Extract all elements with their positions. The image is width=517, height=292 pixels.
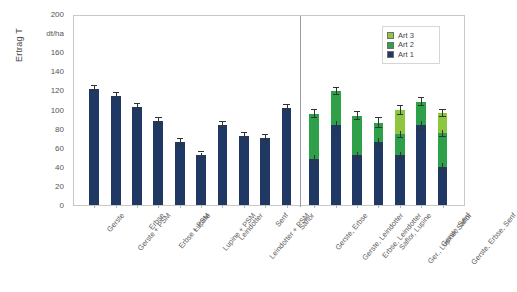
error-cap-inner2-16	[439, 136, 445, 137]
y-tick-0: 0	[30, 202, 64, 210]
error-cap-0-0	[91, 90, 97, 91]
bar-11	[331, 91, 341, 205]
x-tick-12	[357, 205, 358, 208]
bar-10-segment-art1	[309, 159, 319, 205]
error-cap-inner-15	[418, 128, 424, 129]
y-tick-5: 100	[30, 107, 64, 115]
legend-label-art3: Art 3	[398, 32, 414, 40]
bar-11-segment-art2	[331, 91, 341, 124]
legend-swatch-art1	[387, 51, 394, 58]
bar-16-segment-art1	[438, 167, 448, 205]
x-tick-0	[94, 205, 95, 208]
bar-1	[111, 96, 121, 205]
error-cap-0-1	[91, 85, 97, 86]
error-cap-2-1	[134, 103, 140, 104]
x-tick-9	[287, 205, 288, 208]
bar-15-segment-art1	[416, 125, 426, 205]
error-cap-14-1	[397, 105, 403, 106]
bar-7	[239, 136, 249, 205]
x-tick-1	[116, 205, 117, 208]
y-tick-7: 140	[30, 68, 64, 76]
bar-1-segment-art1	[111, 96, 121, 205]
legend-swatch-art3	[387, 32, 394, 39]
bar-6-segment-art1	[218, 125, 228, 205]
error-cap-11-1	[333, 87, 339, 88]
bar-14	[395, 110, 405, 205]
bar-8-segment-art1	[260, 138, 270, 205]
x-tick-3	[158, 205, 159, 208]
y-tick-4: 80	[30, 126, 64, 134]
bar-8	[260, 138, 270, 205]
error-cap-13-1	[375, 117, 381, 118]
error-cap-12-1	[354, 111, 360, 112]
error-cap-1-1	[113, 92, 119, 93]
bar-4-segment-art1	[175, 142, 185, 205]
bar-5	[196, 155, 206, 205]
error-cap-12-0	[354, 119, 360, 120]
error-cap-inner-16	[439, 170, 445, 171]
error-cap-inner2-14	[397, 137, 403, 138]
y-tick-1: 20	[30, 183, 64, 191]
y-tick-2: 40	[30, 164, 64, 172]
x-tick-13	[378, 205, 379, 208]
bar-7-segment-art1	[239, 136, 249, 205]
x-tick-7	[244, 205, 245, 208]
error-cap-9-0	[283, 109, 289, 110]
bar-0-segment-art1	[89, 89, 99, 206]
error-cap-7-1	[241, 132, 247, 133]
error-cap-15-1	[418, 97, 424, 98]
legend-label-art2: Art 2	[398, 41, 414, 49]
error-cap-inner-11	[333, 128, 339, 129]
chart-legend: Art 3 Art 2 Art 1	[382, 26, 440, 64]
x-tick-16	[443, 205, 444, 208]
bar-9	[282, 108, 292, 205]
error-cap-inner-13	[375, 145, 381, 146]
error-cap-5-1	[198, 151, 204, 152]
x-tick-6	[222, 205, 223, 208]
x-tick-11	[336, 205, 337, 208]
error-cap-15-0	[418, 105, 424, 106]
legend-item-art2: Art 2	[387, 41, 435, 49]
x-tick-8	[265, 205, 266, 208]
error-cap-6-0	[219, 127, 225, 128]
legend-label-art1: Art 1	[398, 51, 414, 59]
bar-10	[309, 114, 319, 205]
error-cap-5-0	[198, 157, 204, 158]
error-cap-1-0	[113, 98, 119, 99]
bar-12	[352, 116, 362, 205]
y-tick-3: 60	[30, 145, 64, 153]
bar-3-segment-art1	[153, 121, 163, 205]
bar-16-segment-art2	[438, 133, 448, 166]
error-cap-11-0	[333, 94, 339, 95]
error-cap-inner-14	[397, 158, 403, 159]
bar-13-segment-art1	[374, 142, 384, 205]
y-tick-6: 120	[30, 87, 64, 95]
error-cap-4-0	[177, 144, 183, 145]
bar-12-segment-art2	[352, 116, 362, 155]
y-tick-8: 160	[30, 49, 64, 57]
bar-2-segment-art1	[132, 107, 142, 205]
error-cap-10-1	[311, 109, 317, 110]
y-tick-9: dt/ha	[30, 30, 64, 38]
error-cap-8-1	[262, 134, 268, 135]
legend-item-art1: Art 1	[387, 51, 435, 59]
error-cap-6-1	[219, 121, 225, 122]
error-cap-7-0	[241, 138, 247, 139]
bar-4	[175, 142, 185, 205]
x-label-16: Gerste, Erbse, Senf	[469, 211, 517, 267]
legend-item-art3: Art 3	[387, 32, 435, 40]
bar-6	[218, 125, 228, 205]
bar-15	[416, 102, 426, 205]
y-tick-10: 200	[30, 11, 64, 19]
bar-11-segment-art1	[331, 125, 341, 205]
error-cap-14-0	[397, 114, 403, 115]
x-tick-5	[201, 205, 202, 208]
x-tick-10	[314, 205, 315, 208]
bar-0	[89, 89, 99, 206]
error-cap-13-0	[375, 127, 381, 128]
bar-14-segment-art1	[395, 155, 405, 205]
error-cap-9-1	[283, 104, 289, 105]
error-cap-3-0	[155, 123, 161, 124]
error-cap-8-0	[262, 140, 268, 141]
